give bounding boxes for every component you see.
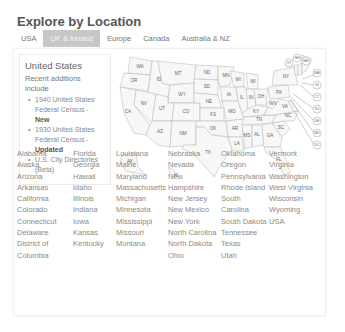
state-link[interactable]: Pennsylvania (221, 171, 269, 182)
map-label: SC (278, 125, 285, 130)
state-link[interactable]: Nebraska (168, 148, 221, 159)
tab-canada[interactable]: Canada (138, 31, 174, 46)
state-link[interactable]: South Carolina (221, 193, 269, 216)
tab-europe[interactable]: Europe (102, 31, 136, 46)
map-label: OR (131, 78, 139, 83)
map-label: IL (240, 95, 244, 100)
state-link[interactable]: Arkansas (17, 182, 73, 193)
map-label: DE (315, 119, 321, 123)
map-label: WA (136, 64, 144, 69)
state-link[interactable]: New Jersey (168, 193, 221, 204)
state-link[interactable]: Utah (221, 250, 269, 261)
state-link[interactable]: Texas (221, 238, 269, 249)
state-column: Alabama Alaska Arizona Arkansas Californ… (17, 148, 73, 261)
state-link[interactable]: Maine (116, 159, 168, 170)
state-link[interactable]: South Dakota (221, 216, 269, 227)
state-nh (298, 63, 302, 75)
map-label: CO (183, 109, 190, 114)
map-label: IN (249, 95, 254, 100)
map-label: CA (125, 109, 132, 114)
state-link[interactable]: West Virginia (269, 182, 317, 193)
state-link[interactable]: Kentucky (73, 238, 116, 249)
map-label: NV (141, 101, 148, 106)
map-label: WV (269, 101, 277, 106)
map-label: WY (178, 92, 185, 97)
state-link[interactable]: Georgia (73, 159, 116, 170)
state-link[interactable]: Nevada (168, 159, 221, 170)
state-link[interactable]: USA (269, 216, 317, 227)
state-link[interactable]: Massachusetts (116, 182, 168, 193)
map-label: KS (210, 112, 216, 117)
state-link[interactable]: Oklahoma (221, 148, 269, 159)
state-link[interactable]: Arizona (17, 171, 73, 182)
state-links: Alabama Alaska Arizona Arkansas Californ… (17, 148, 317, 261)
map-label: OH (258, 94, 265, 99)
state-link[interactable]: Colorado (17, 204, 73, 215)
state-link[interactable]: District of Columbia (17, 238, 73, 261)
state-link[interactable]: New Hampshire (168, 171, 221, 194)
map-label: OK (210, 126, 218, 131)
state-vt (294, 65, 298, 75)
map-label: NH (294, 56, 300, 60)
map-label: TN (256, 117, 262, 122)
state-column: Nebraska Nevada New Hampshire New Jersey… (168, 148, 221, 261)
state-link[interactable]: Maryland (116, 171, 168, 182)
state-link[interactable]: Alabama (17, 148, 73, 159)
state-link[interactable]: Mississippi (116, 216, 168, 227)
state-link[interactable]: New York (168, 216, 221, 227)
state-link[interactable]: Hawaii (73, 171, 116, 182)
list-item[interactable]: 1940 United States Federal Census - New (25, 95, 105, 125)
state-link[interactable]: Michigan (116, 193, 168, 204)
state-link[interactable]: Virginia (269, 159, 317, 170)
state-link[interactable]: New Mexico (168, 204, 221, 215)
state-link[interactable]: Missouri (116, 227, 168, 238)
state-link[interactable]: Tennessee (221, 227, 269, 238)
map-label: NY (283, 74, 289, 79)
state-link[interactable]: Illinois (73, 193, 116, 204)
state-link[interactable]: Vermont (269, 148, 317, 159)
map-label: NM (179, 131, 186, 136)
map-label: GA (267, 133, 275, 138)
map-label: KY (253, 109, 259, 114)
map-label: ND (204, 70, 211, 75)
state-link[interactable]: Alaska (17, 159, 73, 170)
map-label: VT (287, 61, 292, 65)
status-badge: New (35, 116, 49, 123)
tab-uk-ireland[interactable]: UK & Ireland (43, 30, 100, 47)
tab-usa[interactable]: USA (16, 31, 41, 46)
state-link[interactable]: Indiana (73, 204, 116, 215)
state-link[interactable]: Wyoming (269, 204, 317, 215)
map-label: CT (315, 95, 321, 99)
state-az (146, 121, 172, 147)
map-label: LA (234, 141, 241, 146)
state-link[interactable]: Kansas (73, 227, 116, 238)
page-title: Explore by Location (17, 14, 141, 29)
map-label: PA (276, 90, 283, 95)
state-link[interactable]: Montana (116, 238, 168, 249)
state-link[interactable]: Wisconsin (269, 193, 317, 204)
state-link[interactable]: Idaho (73, 182, 116, 193)
state-link[interactable]: Oregon (221, 159, 269, 170)
map-label: ID (157, 77, 162, 82)
map-label: WI (235, 77, 241, 82)
state-link[interactable]: Washington (269, 171, 317, 182)
state-link[interactable]: Minnesota (116, 204, 168, 215)
state-link[interactable]: North Carolina (168, 227, 221, 238)
state-link[interactable]: Iowa (73, 216, 116, 227)
map-label: NC (285, 113, 292, 118)
map-label: MO (228, 109, 236, 114)
state-link[interactable]: Florida (73, 148, 116, 159)
state-link[interactable]: North Dakota (168, 238, 221, 249)
map-label: MD (314, 131, 320, 135)
state-link[interactable]: Ohio (168, 250, 221, 261)
state-link[interactable]: Connecticut (17, 216, 73, 227)
state-column: Vermont Virginia Washington West Virgini… (269, 148, 317, 261)
state-column: Florida Georgia Hawaii Idaho Illinois In… (73, 148, 116, 261)
tab-australia-nz[interactable]: Australia & NZ (176, 31, 234, 46)
map-label: AR (232, 126, 239, 131)
state-link[interactable]: Rhode Island (221, 182, 269, 193)
map-label: DC (314, 143, 320, 147)
state-link[interactable]: Louisiana (116, 148, 168, 159)
state-link[interactable]: California (17, 193, 73, 204)
state-link[interactable]: Delaware (17, 227, 73, 238)
